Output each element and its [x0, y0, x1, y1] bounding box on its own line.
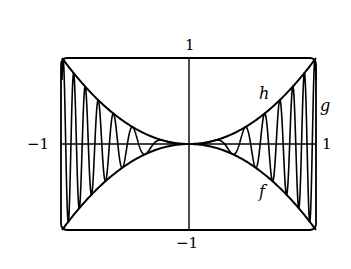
curve-label-g: g — [320, 98, 330, 114]
curve-label-f: f — [259, 184, 265, 200]
x-tick-label-right: 1 — [322, 137, 332, 152]
y-tick-label-top: 1 — [185, 38, 195, 53]
curve-label-h: h — [259, 86, 269, 102]
y-tick-label-bottom: −1 — [176, 236, 198, 251]
plot-area — [0, 0, 351, 269]
x-tick-label-left: −1 — [27, 137, 49, 152]
